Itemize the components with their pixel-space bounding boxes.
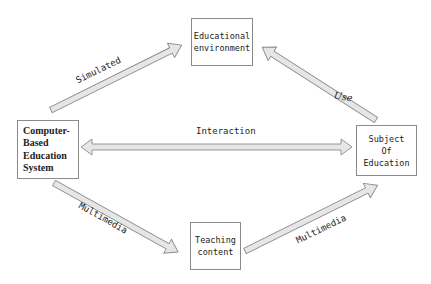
node-label: Subject Of Education xyxy=(363,133,409,169)
arrow-multimedia-to-subject xyxy=(241,178,381,258)
node-teaching-content: Teaching content xyxy=(190,222,241,270)
node-label: Teaching content xyxy=(195,234,236,258)
node-label: Computer- Based Education System xyxy=(23,125,70,175)
arrow-use xyxy=(258,41,380,127)
arrow-multimedia-to-teaching xyxy=(50,176,182,259)
node-subject-of-education: Subject Of Education xyxy=(356,125,417,176)
node-educational-environment: Educational environment xyxy=(191,18,253,66)
node-label: Educational environment xyxy=(194,30,250,54)
arrow-simulated xyxy=(47,38,185,117)
edge-label-interaction: Interaction xyxy=(196,126,256,136)
arrow-interaction xyxy=(81,139,352,155)
node-computer-based-education-system: Computer- Based Education System xyxy=(17,120,79,179)
education-system-diagram: Educational environment Computer- Based … xyxy=(0,0,431,284)
